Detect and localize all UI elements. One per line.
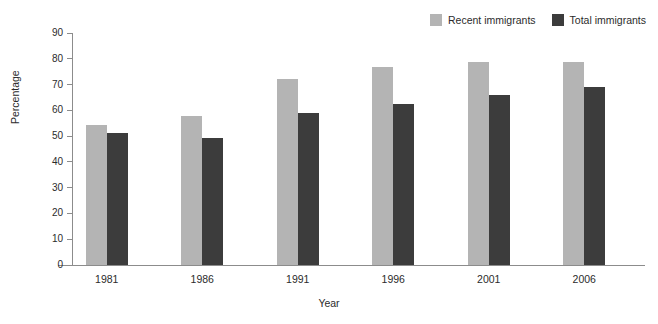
y-axis-tick-mark — [67, 239, 72, 240]
bar-total-immigrants — [202, 138, 223, 265]
y-axis-tick-label: 60 — [43, 105, 67, 115]
legend-entry-recent-immigrants: Recent immigrants — [430, 14, 536, 26]
y-axis-tick-label: 90 — [43, 28, 67, 38]
bar-total-immigrants — [489, 95, 510, 265]
x-axis-tick-label: 1996 — [363, 274, 423, 285]
bar-chart: Recent immigrants Total immigrants Perce… — [0, 0, 658, 324]
x-axis-tick-label: 1981 — [77, 274, 137, 285]
y-axis-tick-label: 70 — [43, 80, 67, 90]
bar-group — [276, 33, 320, 265]
bar-recent-immigrants — [372, 67, 393, 265]
y-axis-tick: 80 — [43, 54, 72, 64]
y-axis-tick: 0 — [43, 260, 72, 270]
legend-entry-total-immigrants: Total immigrants — [552, 14, 646, 26]
x-axis-line — [58, 265, 645, 266]
x-axis-title: Year — [0, 298, 658, 309]
y-axis-tick-label: 50 — [43, 131, 67, 141]
x-axis-tick-label: 2001 — [459, 274, 519, 285]
bar-recent-immigrants — [181, 116, 202, 266]
chart-legend: Recent immigrants Total immigrants — [430, 14, 646, 26]
y-axis-tick: 60 — [43, 105, 72, 115]
legend-label-recent-immigrants: Recent immigrants — [448, 15, 536, 26]
bar-recent-immigrants — [86, 125, 107, 265]
y-axis-tick-label: 40 — [43, 157, 67, 167]
y-axis-tick: 90 — [43, 28, 72, 38]
y-axis-tick-label: 30 — [43, 183, 67, 193]
y-axis-tick: 20 — [43, 208, 72, 218]
y-axis-tick-mark — [67, 110, 72, 111]
y-axis-tick-label: 20 — [43, 208, 67, 218]
y-axis-tick-mark — [67, 33, 72, 34]
y-axis-tick-label: 10 — [43, 234, 67, 244]
y-axis-tick: 70 — [43, 80, 72, 90]
legend-swatch-icon-recent-immigrants — [430, 14, 442, 26]
bar-total-immigrants — [584, 87, 605, 265]
legend-label-total-immigrants: Total immigrants — [570, 15, 646, 26]
y-axis-tick-mark — [67, 187, 72, 188]
y-axis-tick-label: 0 — [43, 260, 67, 270]
bar-total-immigrants — [393, 104, 414, 265]
bar-group — [180, 33, 224, 265]
y-axis-title: Percentage — [10, 70, 21, 124]
bar-total-immigrants — [107, 133, 128, 265]
y-axis-tick-mark — [67, 213, 72, 214]
y-axis-tick: 50 — [43, 131, 72, 141]
y-axis-tick-mark — [67, 58, 72, 59]
plot-area: 0102030405060708090 — [72, 33, 645, 265]
bar-group — [562, 33, 606, 265]
y-axis-tick: 10 — [43, 234, 72, 244]
bar-group — [371, 33, 415, 265]
bar-total-immigrants — [298, 113, 319, 265]
y-axis-tick-mark — [67, 265, 72, 266]
legend-swatch-icon-total-immigrants — [552, 14, 564, 26]
x-axis-tick-label: 1986 — [172, 274, 232, 285]
x-axis-tick-label: 1991 — [268, 274, 328, 285]
y-axis-tick-mark — [67, 84, 72, 85]
y-axis-tick: 30 — [43, 183, 72, 193]
y-axis-tick-label: 80 — [43, 54, 67, 64]
y-axis-tick-mark — [67, 161, 72, 162]
bar-group — [85, 33, 129, 265]
x-axis-tick-label: 2006 — [554, 274, 614, 285]
y-axis-tick: 40 — [43, 157, 72, 167]
bar-recent-immigrants — [468, 62, 489, 265]
y-axis-tick-mark — [67, 136, 72, 137]
bar-group — [467, 33, 511, 265]
bar-recent-immigrants — [277, 79, 298, 265]
bar-recent-immigrants — [563, 62, 584, 265]
